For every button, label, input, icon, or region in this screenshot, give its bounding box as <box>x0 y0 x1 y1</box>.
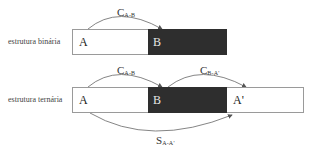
ternary-segment-a: A <box>79 93 88 108</box>
arc-ternary-c-ba <box>168 75 246 88</box>
ternary-structure-label: estrutura ternária <box>8 95 62 104</box>
ternary-relation-s-aa: SA-A' <box>156 134 175 146</box>
binary-structure-label: estrutura binária <box>8 37 60 46</box>
arc-ternary-c-ab <box>88 75 162 88</box>
binary-segment-b: B <box>153 35 161 50</box>
ternary-segment-b: B <box>153 93 161 108</box>
ternary-relation-c-ba: CB-A' <box>200 64 220 76</box>
ternary-segment-a-prime: A' <box>233 93 244 108</box>
relation-arcs <box>0 0 315 152</box>
ternary-relation-c-ab: CA-B <box>117 64 135 76</box>
arc-ternary-s-aa <box>90 113 232 131</box>
binary-relation-c-ab: CA-B <box>117 6 135 18</box>
arc-binary-c-ab <box>88 17 162 30</box>
binary-segment-a: A <box>79 35 88 50</box>
